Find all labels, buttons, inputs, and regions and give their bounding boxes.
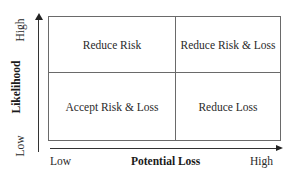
y-axis-arrow-icon bbox=[35, 13, 43, 20]
x-axis-line bbox=[50, 148, 277, 149]
x-axis-arrow-icon bbox=[276, 145, 283, 151]
y-axis-title: Likelihood bbox=[10, 57, 22, 117]
y-axis-line bbox=[38, 19, 39, 152]
quadrant-label: Accept Risk & Loss bbox=[66, 101, 159, 113]
quadrant-reduce-risk-and-loss: Reduce Risk & Loss bbox=[176, 17, 280, 72]
quadrant-label: Reduce Risk bbox=[83, 39, 141, 51]
matrix-grid: Reduce Risk Reduce Risk & Loss Accept Ri… bbox=[48, 16, 281, 141]
x-axis-low-label: Low bbox=[50, 155, 71, 167]
x-axis-high-label: High bbox=[250, 155, 273, 167]
quadrant-label: Reduce Loss bbox=[198, 101, 257, 113]
quadrant-accept-risk-and-loss: Accept Risk & Loss bbox=[49, 73, 175, 140]
quadrant-label: Reduce Risk & Loss bbox=[181, 39, 276, 51]
quadrant-reduce-loss: Reduce Loss bbox=[176, 73, 280, 140]
y-axis-high-label: High bbox=[14, 15, 26, 45]
x-axis-title: Potential Loss bbox=[131, 155, 200, 167]
quadrant-reduce-risk: Reduce Risk bbox=[49, 17, 175, 72]
y-axis-low-label: Low bbox=[14, 131, 26, 161]
